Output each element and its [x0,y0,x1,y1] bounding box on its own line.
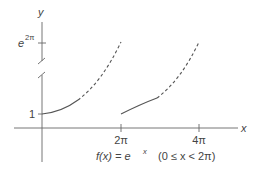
x-tick-label-4pi: 4π [192,134,206,146]
curve-dashed-segment [78,42,121,100]
caption-domain: (0 ≤ x < 2π) [158,150,215,162]
y-tick-label-e2pi-base: e [18,37,24,49]
series-period-1 [42,42,121,114]
caption: f(x) = e x (0 ≤ x < 2π) [96,147,215,162]
curve-solid-segment [42,100,78,114]
axis-break-mark-lower [38,72,45,78]
y-tick-label-1: 1 [29,108,35,120]
curve-dashed-segment [157,42,199,98]
y-axis [38,22,46,162]
axis-break-mark-upper [38,58,45,64]
y-axis-label: y [37,6,45,18]
x-axis-label: x [240,122,247,134]
x-tick-label-2pi: 2π [114,134,128,146]
x-axis [14,124,238,132]
curve-solid-segment [121,98,157,114]
caption-exponent: x [142,147,147,156]
y-tick-label-e2pi-exp: 2π [25,33,34,42]
caption-function: f(x) = e [96,150,131,162]
chart-canvas: y x 1 e 2π 2π 4π f(x) = e x (0 ≤ x < 2π) [0,0,258,171]
series-period-2 [121,42,199,114]
